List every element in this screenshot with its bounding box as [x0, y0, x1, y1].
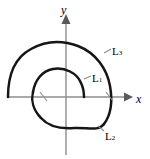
- curve-label-l2: L2: [105, 126, 115, 144]
- y-axis-label: y: [61, 0, 66, 18]
- leader-line-l3: [104, 49, 111, 53]
- curve-label-l3: L3: [112, 41, 122, 59]
- y-axis: [62, 14, 71, 155]
- curve-label-l1-subscript: 1: [99, 76, 103, 84]
- curve-label-l3-base: L: [112, 45, 119, 57]
- x-axis-arrowhead: [124, 93, 133, 102]
- curve-label-l2-base: L: [105, 130, 112, 142]
- spiral-figure: y x L3 L1 L2: [0, 0, 150, 159]
- curve-label-l2-subscript: 2: [112, 134, 116, 142]
- x-axis: [8, 93, 133, 102]
- x-axis-label: x: [136, 89, 141, 107]
- curve-label-l3-subscript: 3: [119, 49, 123, 57]
- leader-line-l1: [84, 76, 91, 79]
- curve-label-l1-base: L: [92, 72, 99, 84]
- y-axis-label-text: y: [61, 3, 66, 17]
- x-axis-label-text: x: [136, 92, 141, 106]
- curve-label-l1: L1: [92, 68, 102, 86]
